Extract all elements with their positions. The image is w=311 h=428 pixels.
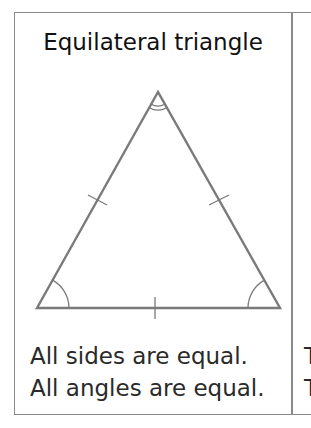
apex-angle-arc-outer — [149, 108, 167, 110]
caption-angles-equal: All angles are equal. — [30, 377, 265, 400]
tick-right-side — [209, 195, 229, 205]
angle-marks — [53, 104, 265, 308]
caption-sides-equal: All sides are equal. — [30, 345, 248, 368]
triangle-outline — [37, 92, 280, 308]
next-panel-partial-text-2: T — [304, 377, 311, 400]
equal-side-ticks — [88, 195, 229, 319]
next-panel-partial-text-1: T — [304, 345, 311, 368]
base-right-angle-arc — [248, 280, 264, 308]
triangle-sides — [37, 92, 280, 308]
base-left-angle-arc — [53, 280, 69, 308]
apex-angle-arc-inner — [151, 104, 165, 106]
tick-left-side — [88, 195, 107, 205]
